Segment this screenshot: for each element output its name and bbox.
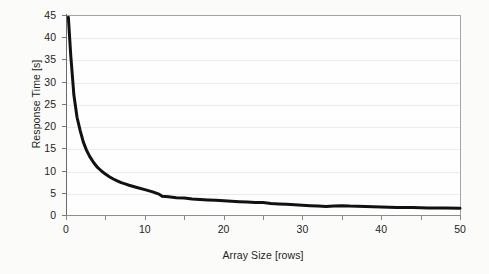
y-tick (62, 193, 66, 194)
x-tick (263, 216, 264, 220)
y-tick (62, 82, 66, 83)
gridline (66, 149, 460, 150)
x-tick (342, 216, 343, 220)
gridline (66, 38, 460, 39)
x-tick (460, 216, 461, 220)
x-tick (184, 216, 185, 220)
x-tick-label: 40 (366, 224, 396, 235)
gridline (66, 172, 460, 173)
chart-figure: Response Time [s] 051015202530354045 010… (0, 0, 489, 274)
y-tick-label: 25 (32, 99, 56, 110)
y-tick (62, 148, 66, 149)
y-tick-label: 20 (32, 121, 56, 132)
y-tick-label: 30 (32, 77, 56, 88)
x-tick-label: 10 (130, 224, 160, 235)
x-tick (421, 216, 422, 220)
gridline (66, 105, 460, 106)
y-tick-label: 40 (32, 32, 56, 43)
y-tick (62, 171, 66, 172)
y-tick (62, 15, 66, 16)
y-tick-label: 15 (32, 143, 56, 154)
x-tick (302, 216, 303, 220)
gridline (66, 194, 460, 195)
x-axis-title: Array Size [rows] (66, 249, 460, 261)
y-tick-label: 35 (32, 54, 56, 65)
y-axis-line (66, 14, 67, 216)
x-tick-label: 20 (209, 224, 239, 235)
x-tick (66, 216, 67, 220)
plot-area (66, 15, 461, 216)
y-tick-label: 5 (32, 188, 56, 199)
x-tick-label: 0 (51, 224, 81, 235)
y-tick (62, 59, 66, 60)
gridline (66, 127, 460, 128)
gridline (66, 83, 460, 84)
x-tick-label: 30 (287, 224, 317, 235)
gridline (66, 60, 460, 61)
x-tick (105, 216, 106, 220)
y-tick-label: 0 (32, 210, 56, 221)
y-tick (62, 104, 66, 105)
x-tick-label: 50 (445, 224, 475, 235)
y-tick (62, 126, 66, 127)
y-tick-label: 45 (32, 10, 56, 21)
x-tick (145, 216, 146, 220)
y-tick-label: 10 (32, 166, 56, 177)
x-tick (224, 216, 225, 220)
x-tick (381, 216, 382, 220)
y-tick (62, 37, 66, 38)
